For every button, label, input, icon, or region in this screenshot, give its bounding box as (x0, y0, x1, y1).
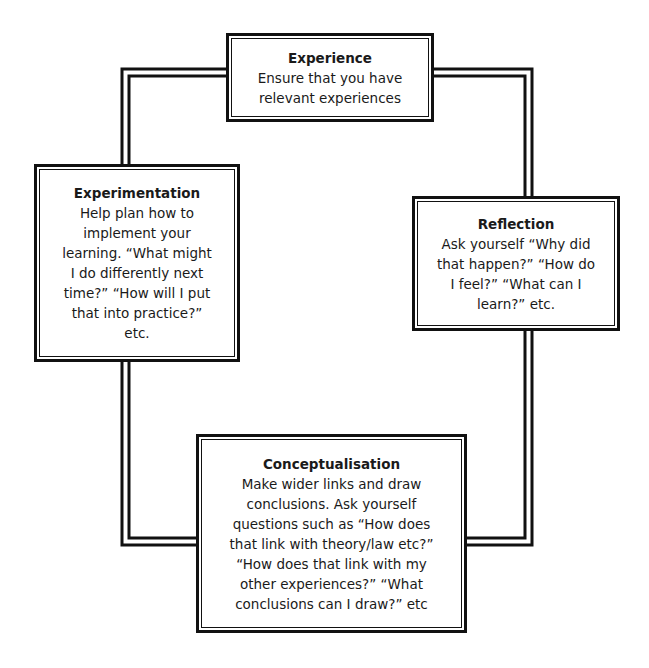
reflection-text: Ask yourself “Why did that happen?” “How… (437, 234, 595, 314)
connector-experimentation-experience-inner (129, 76, 226, 164)
learning-cycle-diagram: Experience Ensure that you have relevant… (0, 0, 649, 668)
experience-box: Experience Ensure that you have relevant… (226, 33, 434, 122)
experimentation-title: Experimentation (74, 183, 200, 203)
connector-reflection-conceptualisation-outer (467, 331, 532, 545)
experimentation-text: Help plan how to implement your learning… (62, 203, 212, 343)
connector-conceptualisation-experimentation-inner (129, 362, 196, 538)
experience-title: Experience (288, 48, 372, 68)
conceptualisation-title: Conceptualisation (263, 454, 400, 474)
connector-conceptualisation-experimentation-outer (122, 362, 196, 545)
reflection-box: Reflection Ask yourself “Why did that ha… (412, 196, 620, 331)
experience-text: Ensure that you have relevant experience… (258, 68, 402, 108)
reflection-title: Reflection (478, 214, 555, 234)
conceptualisation-box: Conceptualisation Make wider links and d… (196, 434, 467, 633)
connector-experience-reflection-outer (434, 69, 532, 196)
connector-experience-reflection-inner (434, 76, 525, 196)
experimentation-box: Experimentation Help plan how to impleme… (34, 164, 240, 362)
connector-experimentation-experience-outer (122, 69, 226, 164)
connector-reflection-conceptualisation-inner (467, 331, 525, 538)
conceptualisation-text: Make wider links and draw conclusions. A… (230, 474, 434, 614)
